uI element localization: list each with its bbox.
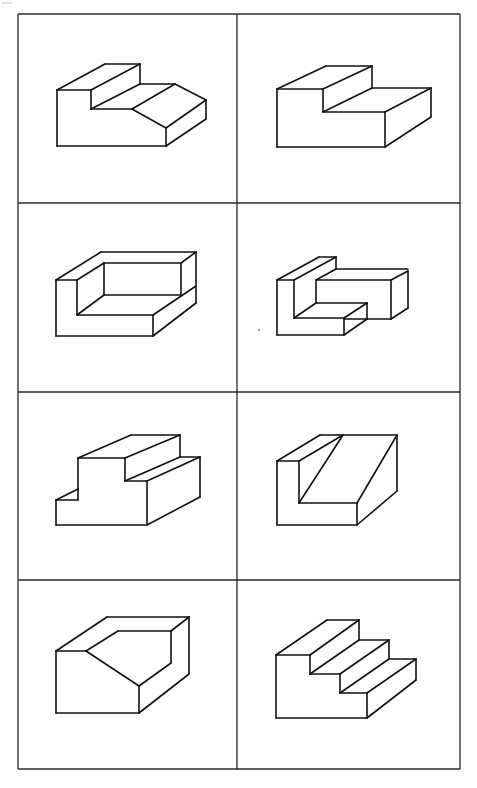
stray-dot	[258, 329, 260, 331]
page-background	[0, 0, 477, 788]
isometric-drawing-sheet	[0, 0, 477, 788]
